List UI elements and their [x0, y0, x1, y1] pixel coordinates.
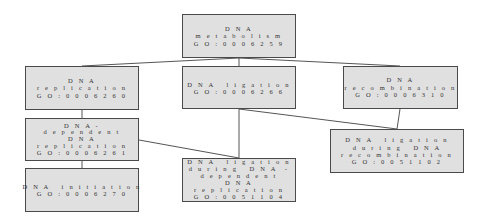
- node-line: D N A i n i t i a t i o n: [23, 183, 142, 190]
- node-go-id: G O : 0 0 0 6 2 7 0: [37, 190, 127, 197]
- node-line: D N A: [387, 76, 415, 83]
- node-go-id: G O : 0 0 5 1 1 0 2: [352, 158, 442, 165]
- node-go-id: G O : 0 0 0 6 2 5 9: [194, 40, 284, 47]
- node-go-id: G O : 0 0 0 6 3 1 0: [355, 91, 445, 98]
- node-dna-ligation: D N A l i g a t i o n G O : 0 0 0 6 2 6 …: [182, 66, 296, 109]
- node-go-id: G O : 0 0 0 6 2 6 0: [37, 92, 127, 99]
- node-dna-recombination: D N A r e c o m b i n a t i o n G O : 0 …: [343, 66, 458, 109]
- node-dna-dependent-dna-replication: D N A - d e p e n d e n t D N A r e p l …: [25, 118, 139, 161]
- node-go-id: G O : 0 0 0 6 2 6 6: [194, 88, 284, 95]
- node-dna-initiation: D N A i n i t i a t i o n G O : 0 0 0 6 …: [25, 168, 139, 212]
- node-line: D N A l i g a t i o n: [345, 136, 448, 143]
- node-line: d u r i n g D N A: [353, 144, 442, 151]
- node-dna-replication: D N A r e p l i c a t i o n G O : 0 0 0 …: [25, 66, 139, 110]
- edge-dependent-ligdep: [139, 140, 239, 158]
- edge-ligation-ligrec: [239, 109, 397, 129]
- edge-metabolism-recombination: [239, 58, 400, 66]
- node-dna-ligation-during-dependent-replication: D N A l i g a t i o n d u r i n g D N A …: [182, 158, 296, 202]
- node-line: r e c o m b i n a t i o n: [341, 151, 453, 158]
- node-go-id: G O : 0 0 5 1 1 0 4: [194, 194, 284, 201]
- node-line: D N A l i g a t i o n: [187, 81, 290, 88]
- node-line: m e t a b o l i s m: [196, 32, 283, 39]
- node-line: r e c o m b i n a t i o n: [344, 84, 456, 91]
- node-line: r e p l i c a t i o n: [37, 84, 127, 91]
- node-line: D N A: [68, 77, 96, 84]
- node-go-id: G O : 0 0 0 6 2 6 1: [37, 150, 127, 157]
- node-line: D N A: [225, 25, 253, 32]
- node-dna-ligation-during-recombination: D N A l i g a t i o n d u r i n g D N A …: [330, 129, 464, 173]
- edge-recombination-ligrec: [397, 109, 400, 129]
- edge-metabolism-replication: [82, 58, 239, 66]
- node-dna-metabolism: D N A m e t a b o l i s m G O : 0 0 0 6 …: [182, 14, 296, 58]
